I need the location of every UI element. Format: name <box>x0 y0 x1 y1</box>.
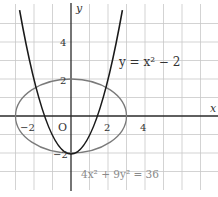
tick-x-4: 4 <box>140 122 146 133</box>
graph-canvas: y x O 4 2 −2 −2 2 4 y = x² − 2 4x² + 9y²… <box>0 0 218 197</box>
y-axis-label: y <box>75 2 83 15</box>
tick-y-4: 4 <box>60 37 66 48</box>
parabola-equation-label: y = x² − 2 <box>118 55 180 69</box>
tick-y-2: 2 <box>60 75 66 86</box>
tick-y-neg2: −2 <box>53 149 68 160</box>
tick-x-2: 2 <box>104 122 110 133</box>
x-axis-label: x <box>210 102 217 115</box>
tick-x-neg2: −2 <box>20 122 35 133</box>
grid <box>0 4 218 190</box>
ellipse-equation-label: 4x² + 9y² = 36 <box>81 168 159 180</box>
origin-label: O <box>58 121 67 134</box>
